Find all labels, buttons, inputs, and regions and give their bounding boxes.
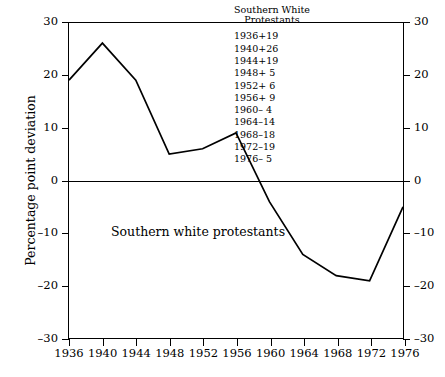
legend-value: + 5 <box>258 67 278 79</box>
legend-row: 1952+ 6 <box>234 79 278 91</box>
legend-year: 1968 <box>234 128 258 140</box>
x-tick-label-1956: 1956 <box>222 348 251 360</box>
x-tick-1964 <box>304 339 305 346</box>
series-annotation-label: Southern white protestants <box>111 224 285 239</box>
legend-row: 1964–14 <box>234 116 278 128</box>
y-tick-right-0 <box>403 181 410 182</box>
legend-year: 1956 <box>234 91 258 103</box>
x-tick-label-1936: 1936 <box>54 348 83 360</box>
y-tick-left-10 <box>62 128 69 129</box>
legend-year: 1944 <box>234 55 258 67</box>
x-tick-label-1968: 1968 <box>323 348 352 360</box>
y-tick-left-0 <box>62 181 69 182</box>
x-tick-label-1944: 1944 <box>122 348 151 360</box>
legend-title-line1: Southern White <box>234 4 310 15</box>
legend-year: 1976 <box>234 153 258 165</box>
x-tick-label-1960: 1960 <box>256 348 285 360</box>
x-tick-label-1976: 1976 <box>390 348 419 360</box>
legend-year: 1948 <box>234 67 258 79</box>
legend-year: 1940 <box>234 42 258 54</box>
y-tick-left--20 <box>62 286 69 287</box>
y-tick-right-30 <box>403 22 410 23</box>
legend-value: –18 <box>258 128 278 140</box>
y-tick-label-left--30: –30 <box>38 333 58 345</box>
x-tick-label-1940: 1940 <box>88 348 117 360</box>
legend-row: 1972–19 <box>234 141 278 153</box>
legend-value: + 6 <box>258 79 278 91</box>
x-tick-1976 <box>405 339 406 346</box>
legend-value: – 5 <box>258 153 278 165</box>
legend-row: 1968–18 <box>234 128 278 140</box>
y-tick-label-right--20: –20 <box>414 280 434 292</box>
x-tick-1952 <box>203 339 204 346</box>
legend-data-table: 1936+191940+261944+191948+ 51952+ 61956+… <box>234 30 278 165</box>
legend-value: +26 <box>258 42 278 54</box>
x-tick-label-1972: 1972 <box>357 348 386 360</box>
x-tick-1960 <box>271 339 272 346</box>
legend-row: 1960– 4 <box>234 104 278 116</box>
y-tick-left-30 <box>62 22 69 23</box>
y-tick-label-left--10: –10 <box>38 227 58 239</box>
x-tick-1948 <box>170 339 171 346</box>
legend-value: –19 <box>258 141 278 153</box>
legend-row: 1948+ 5 <box>234 67 278 79</box>
x-tick-1936 <box>69 339 70 346</box>
y-tick-label-left-10: 10 <box>43 122 58 134</box>
legend-title-line2: Protestants <box>234 15 310 26</box>
x-tick-1968 <box>338 339 339 346</box>
legend-value: +19 <box>258 30 278 42</box>
legend-row: 1944+19 <box>234 55 278 67</box>
y-tick-label-right-10: 10 <box>414 122 429 134</box>
y-tick-label-right-20: 20 <box>414 69 429 81</box>
chart-figure: Percentage point deviation 3030202010100… <box>0 0 445 377</box>
y-tick-left-20 <box>62 75 69 76</box>
y-tick-label-left-30: 30 <box>43 16 58 28</box>
legend-year: 1936 <box>234 30 258 42</box>
x-tick-1940 <box>103 339 104 346</box>
legend-year: 1972 <box>234 141 258 153</box>
legend-row: 1956+ 9 <box>234 91 278 103</box>
y-tick-label-left-0: 0 <box>51 175 58 187</box>
y-tick-label-left-20: 20 <box>43 69 58 81</box>
y-tick-label-right-30: 30 <box>414 16 429 28</box>
legend-value: – 4 <box>258 104 278 116</box>
y-tick-label-right--30: –30 <box>414 333 434 345</box>
y-tick-right-20 <box>403 75 410 76</box>
x-tick-label-1952: 1952 <box>189 348 218 360</box>
y-tick-left--10 <box>62 233 69 234</box>
legend-value: + 9 <box>258 91 278 103</box>
legend-title: Southern White Protestants <box>234 4 310 25</box>
legend-row: 1940+26 <box>234 42 278 54</box>
legend-year: 1964 <box>234 116 258 128</box>
x-tick-1956 <box>237 339 238 346</box>
y-tick-label-right--10: –10 <box>414 227 434 239</box>
y-tick-right-10 <box>403 128 410 129</box>
legend-year: 1952 <box>234 79 258 91</box>
legend-year: 1960 <box>234 104 258 116</box>
x-tick-1972 <box>371 339 372 346</box>
legend-panel: Southern White Protestants 1936+191940+2… <box>234 4 310 165</box>
legend-row: 1976– 5 <box>234 153 278 165</box>
x-tick-label-1964: 1964 <box>290 348 319 360</box>
legend-row: 1936+19 <box>234 30 278 42</box>
y-tick-right--10 <box>403 233 410 234</box>
x-tick-1944 <box>136 339 137 346</box>
legend-value: +19 <box>258 55 278 67</box>
legend-value: –14 <box>258 116 278 128</box>
x-tick-label-1948: 1948 <box>155 348 184 360</box>
y-tick-label-right-0: 0 <box>414 175 421 187</box>
y-tick-left--30 <box>62 339 69 340</box>
y-tick-right--20 <box>403 286 410 287</box>
y-tick-label-left--20: –20 <box>38 280 58 292</box>
